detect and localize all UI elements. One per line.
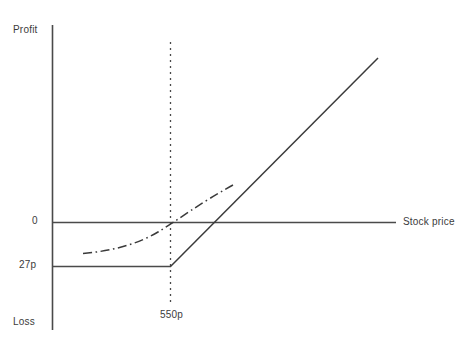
y-axis-top-label: Profit [13,24,38,35]
x-tick-label-strike: 550p [160,309,183,320]
y-tick-label-zero: 0 [32,215,38,226]
y-tick-label-premium: 27p [19,259,36,270]
value-before-expiry-curve [83,185,233,254]
payoff-rising-segment [171,58,379,267]
y-axis-bottom-label: Loss [13,316,35,327]
profit-loss-chart: Profit Loss Stock price 0 27p 550p [0,0,473,347]
chart-plot-area [0,0,473,347]
x-axis-label: Stock price [403,216,455,227]
